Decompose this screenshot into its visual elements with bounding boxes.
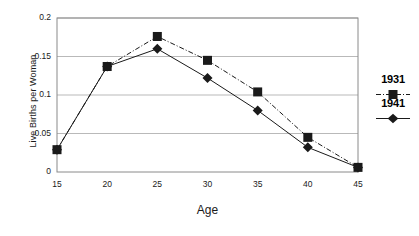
legend-swatch-1931 (370, 86, 416, 97)
x-tick-label: 40 (293, 180, 323, 189)
legend-swatch-1941 (370, 110, 416, 121)
chart-legend: 1931 1941 (368, 73, 418, 121)
x-axis-title: Age (57, 203, 358, 217)
x-tick-labels: 15202530354045 (0, 0, 419, 236)
x-tick-label: 30 (193, 180, 223, 189)
x-tick-label: 15 (42, 180, 72, 189)
x-tick-label: 35 (243, 180, 273, 189)
x-tick-label: 25 (142, 180, 172, 189)
legend-label-1931: 1931 (368, 73, 418, 86)
y-axis-title: Live Births per Woman (28, 21, 38, 181)
x-tick-label: 20 (92, 180, 122, 189)
x-tick-label: 45 (343, 180, 373, 189)
chart-figure: 00.050.10.150.2 15202530354045 Live Birt… (0, 0, 419, 236)
